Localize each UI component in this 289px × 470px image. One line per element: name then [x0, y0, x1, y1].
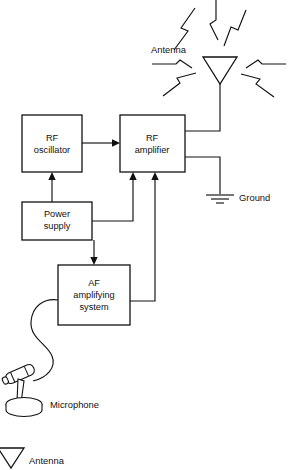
microphone-icon	[1, 363, 42, 417]
arrow-power-to-oscillator	[48, 172, 55, 202]
legend-antenna-symbol	[0, 448, 24, 468]
arrow-oscillator-to-amplifier	[82, 139, 120, 146]
microphone-cable	[31, 300, 58, 381]
diagram-canvas: Antenna Ground RF oscillator RF amplifie…	[0, 0, 289, 470]
legend-antenna-label: Antenna	[29, 455, 65, 466]
rf-oscillator-line2: oscillator	[34, 145, 70, 155]
power-supply-line1: Power	[44, 209, 70, 219]
rf-oscillator-line1: RF	[46, 133, 59, 143]
af-system-line2: amplifying	[73, 290, 114, 300]
block-rf-oscillator[interactable]: RF oscillator	[22, 115, 82, 172]
af-system-line3: system	[79, 302, 108, 312]
af-system-line1: AF	[88, 278, 100, 288]
antenna-label: Antenna	[151, 44, 187, 55]
ground-symbol	[206, 195, 234, 203]
ground-label: Ground	[239, 192, 270, 203]
block-power-supply[interactable]: Power supply	[22, 202, 92, 240]
antenna-symbol	[203, 57, 237, 122]
antenna-feed-wire	[185, 122, 220, 131]
block-rf-amplifier[interactable]: RF amplifier	[120, 115, 185, 172]
arrow-power-to-amplifier	[92, 172, 137, 221]
power-supply-line2: supply	[44, 221, 71, 231]
arrow-power-to-af	[90, 240, 97, 265]
arrow-af-to-amplifier	[130, 172, 159, 301]
ground-wire	[185, 157, 220, 194]
block-af-amplifying-system[interactable]: AF amplifying system	[58, 265, 130, 325]
microphone-label: Microphone	[50, 399, 99, 410]
rf-amplifier-line1: RF	[146, 133, 159, 143]
rf-amplifier-line2: amplifier	[135, 145, 170, 155]
